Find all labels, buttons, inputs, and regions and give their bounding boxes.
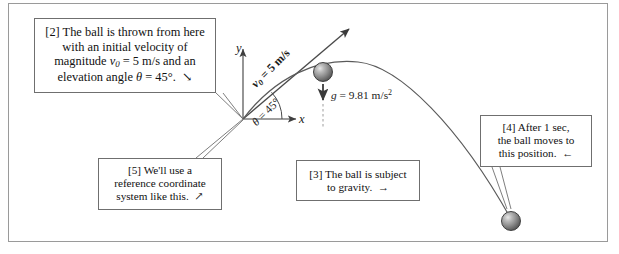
- callout-2-line-1: [2] The ball is thrown from here: [35, 25, 215, 40]
- callout-2-arrow-icon: ↘: [182, 70, 192, 84]
- callout-initial-velocity: [2] The ball is thrown from here with an…: [34, 18, 216, 93]
- leader-line-callout-2-b: [223, 93, 243, 119]
- callout-4-line-1: [4] After 1 sec,: [481, 121, 591, 134]
- ball-after-one-second: [501, 211, 521, 231]
- callout-2-line-3: magnitude v0 = 5 m/s and an: [35, 54, 215, 70]
- callout-2-line-2: with an initial velocity of: [35, 40, 215, 55]
- callout-one-second: [4] After 1 sec, the ball moves to this …: [480, 115, 592, 167]
- x-axis-label: x: [299, 112, 305, 127]
- leader-line-callout-5-b: [203, 120, 243, 158]
- ball-at-launch: [313, 62, 333, 82]
- leader-line-callout-2-a: [215, 92, 243, 119]
- callout-2-line-4: elevation angle θ = 45°. ↘: [35, 70, 215, 85]
- leader-line-callout-5-a: [196, 119, 243, 158]
- gravity-magnitude-label: g = 9.81 m/s2: [331, 88, 392, 101]
- callout-4-arrow-icon: ←: [562, 147, 573, 159]
- figure-canvas: [2] The ball is thrown from here with an…: [0, 0, 619, 254]
- callout-4-line-2: the ball moves to: [481, 134, 591, 147]
- callout-3-arrow-icon: →: [378, 181, 389, 193]
- callout-coordinate-system: [5] We'll use a reference coordinate sys…: [98, 158, 222, 210]
- y-axis-label: y: [236, 41, 242, 56]
- callout-5-line-1: [5] We'll use a: [99, 164, 221, 177]
- callout-gravity: [3] The ball is subject to gravity. →: [296, 160, 420, 201]
- callout-3-line-1: [3] The ball is subject: [297, 168, 419, 181]
- callout-4-line-3: this position. ←: [481, 147, 591, 160]
- callout-5-line-2: reference coordinate: [99, 177, 221, 190]
- leader-line-callout-4-a: [492, 167, 507, 209]
- callout-5-line-3: system like this. ↗: [99, 190, 221, 203]
- callout-5-arrow-icon: ↗: [194, 190, 203, 202]
- callout-3-line-2: to gravity. →: [297, 181, 419, 194]
